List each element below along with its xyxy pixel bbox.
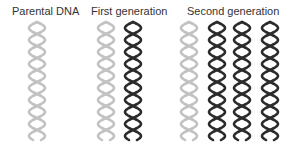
dna-helix-dark (125, 22, 141, 140)
dna-helix-dark (262, 22, 278, 140)
group-first-generation (98, 22, 141, 140)
group-parental (29, 22, 45, 140)
dna-helix-light (181, 22, 197, 140)
dna-helix-dark (209, 22, 225, 140)
dna-helix-light (29, 22, 45, 140)
dna-helix-light (98, 22, 114, 140)
helix-layer (29, 22, 278, 140)
group-second-generation (181, 22, 278, 140)
dna-helices-diagram (0, 0, 290, 148)
dna-helix-dark (234, 22, 250, 140)
